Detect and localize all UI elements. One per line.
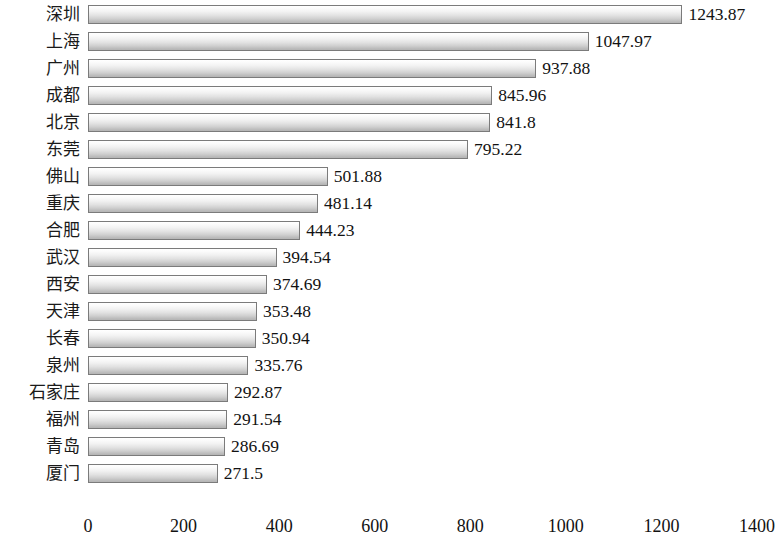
bar-value-label: 335.76 [254, 352, 302, 379]
plot-area: 深圳1243.87上海1047.97广州937.88成都845.96北京841.… [0, 0, 781, 510]
bar-row: 石家庄292.87 [0, 379, 781, 406]
bar-track [88, 298, 757, 325]
bar-value-label: 271.5 [224, 460, 263, 487]
x-axis-tick-label: 1200 [643, 516, 679, 537]
bar [88, 464, 218, 483]
x-axis-tick-label: 400 [266, 516, 293, 537]
bar-value-label: 1047.97 [595, 28, 652, 55]
bar [88, 32, 589, 51]
category-label: 长春 [0, 325, 80, 352]
x-axis-tick-label: 600 [361, 516, 388, 537]
bar-value-label: 1243.87 [688, 1, 745, 28]
category-label: 上海 [0, 28, 80, 55]
bar-track [88, 109, 757, 136]
bar-track [88, 82, 757, 109]
bar-value-label: 394.54 [283, 244, 331, 271]
x-axis: 0200400600800100012001400 [0, 510, 781, 548]
bar-row: 厦门271.5 [0, 460, 781, 487]
bar-track [88, 244, 757, 271]
bar-row: 上海1047.97 [0, 28, 781, 55]
bar-track [88, 28, 757, 55]
bar-value-label: 286.69 [231, 433, 279, 460]
bar-track [88, 55, 757, 82]
bar-value-label: 845.96 [498, 82, 546, 109]
bar-track [88, 190, 757, 217]
bar-track [88, 136, 757, 163]
bar [88, 194, 318, 213]
bar-value-label: 841.8 [496, 109, 535, 136]
category-label: 福州 [0, 406, 80, 433]
category-label: 西安 [0, 271, 80, 298]
bar [88, 221, 300, 240]
category-label: 北京 [0, 109, 80, 136]
bar-track [88, 406, 757, 433]
bar-row: 成都845.96 [0, 82, 781, 109]
x-axis-tick-label: 800 [457, 516, 484, 537]
category-label: 泉州 [0, 352, 80, 379]
bar-row: 西安374.69 [0, 271, 781, 298]
category-label: 深圳 [0, 1, 80, 28]
category-label: 东莞 [0, 136, 80, 163]
x-axis-tick-label: 0 [84, 516, 93, 537]
category-label: 厦门 [0, 460, 80, 487]
bar-row: 重庆481.14 [0, 190, 781, 217]
bar [88, 437, 225, 456]
category-label: 成都 [0, 82, 80, 109]
bar [88, 140, 468, 159]
bar [88, 248, 277, 267]
bar-row: 北京841.8 [0, 109, 781, 136]
bar-track [88, 217, 757, 244]
bar-row: 广州937.88 [0, 55, 781, 82]
bar-row: 青岛286.69 [0, 433, 781, 460]
bar [88, 113, 490, 132]
bar-track [88, 352, 757, 379]
bar-value-label: 350.94 [262, 325, 310, 352]
bar-track [88, 271, 757, 298]
bar-chart: 深圳1243.87上海1047.97广州937.88成都845.96北京841.… [0, 0, 781, 548]
bar-value-label: 291.54 [233, 406, 281, 433]
x-axis-tick-label: 200 [170, 516, 197, 537]
bar [88, 275, 267, 294]
bar-value-label: 501.88 [334, 163, 382, 190]
bar [88, 302, 257, 321]
bar-row: 佛山501.88 [0, 163, 781, 190]
x-axis-tick-label: 1000 [548, 516, 584, 537]
bar [88, 356, 248, 375]
bar [88, 410, 227, 429]
bar [88, 5, 682, 24]
bar [88, 86, 492, 105]
bar-row: 长春350.94 [0, 325, 781, 352]
bar-row: 天津353.48 [0, 298, 781, 325]
bar-row: 武汉394.54 [0, 244, 781, 271]
bar-track [88, 433, 757, 460]
category-label: 青岛 [0, 433, 80, 460]
bar-value-label: 374.69 [273, 271, 321, 298]
bar [88, 383, 228, 402]
bar-value-label: 795.22 [474, 136, 522, 163]
bar-track [88, 1, 757, 28]
category-label: 天津 [0, 298, 80, 325]
bar-row: 福州291.54 [0, 406, 781, 433]
bar-row: 合肥444.23 [0, 217, 781, 244]
bar-row: 东莞795.22 [0, 136, 781, 163]
bar-track [88, 460, 757, 487]
category-label: 广州 [0, 55, 80, 82]
bar-value-label: 481.14 [324, 190, 372, 217]
bar-value-label: 353.48 [263, 298, 311, 325]
category-label: 武汉 [0, 244, 80, 271]
bar [88, 59, 536, 78]
category-label: 重庆 [0, 190, 80, 217]
bar-row: 深圳1243.87 [0, 1, 781, 28]
bar-row: 泉州335.76 [0, 352, 781, 379]
bar-value-label: 937.88 [542, 55, 590, 82]
bar [88, 329, 256, 348]
bar-track [88, 325, 757, 352]
category-label: 石家庄 [0, 379, 80, 406]
bar-track [88, 379, 757, 406]
bar [88, 167, 328, 186]
category-label: 合肥 [0, 217, 80, 244]
bar-track [88, 163, 757, 190]
category-label: 佛山 [0, 163, 80, 190]
bar-value-label: 292.87 [234, 379, 282, 406]
bar-value-label: 444.23 [306, 217, 354, 244]
